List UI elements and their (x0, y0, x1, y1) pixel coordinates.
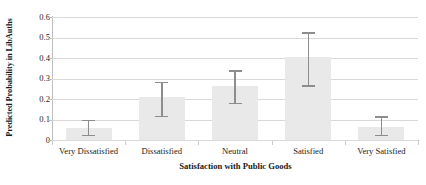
error-bar-cap-lower (302, 85, 315, 86)
gridline (52, 58, 418, 59)
error-bar-stem (308, 32, 309, 86)
gridline (52, 140, 418, 141)
y-tickmark (48, 79, 52, 80)
y-tick-label: 0 (24, 136, 50, 145)
error-bar-stem (381, 116, 382, 135)
error-bar-cap-lower (375, 135, 388, 136)
error-bar (228, 70, 242, 104)
x-tick-label: Neutral (198, 145, 271, 157)
x-tickmark (418, 141, 419, 145)
error-bar (374, 116, 388, 135)
x-tickmark (198, 141, 199, 145)
y-tick-label: 0.1 (24, 115, 50, 124)
error-bar-stem (88, 120, 89, 136)
y-tickmark (48, 17, 52, 18)
error-bar-stem (234, 70, 235, 104)
error-bar-stem (161, 82, 162, 118)
x-tick-label: Dissatisfied (125, 145, 198, 157)
x-tickmark (272, 141, 273, 145)
error-bar-cap-lower (229, 103, 242, 104)
y-tickmark (48, 120, 52, 121)
gridline (52, 17, 418, 18)
x-tick-label: Very Satisfied (345, 145, 418, 157)
x-tickmark (125, 141, 126, 145)
bar-chart: Predicted Probability in LibAuths 00.10.… (0, 0, 426, 185)
y-axis-tick-labels: 00.10.20.30.40.50.6 (24, 0, 50, 185)
y-tick-label: 0.6 (24, 13, 50, 22)
error-bar-cap-lower (155, 116, 168, 117)
y-axis-title: Predicted Probability in LibAuths (3, 5, 17, 150)
x-tickmark (345, 141, 346, 145)
error-bar (155, 82, 169, 118)
error-bar (301, 32, 315, 86)
x-axis-tick-labels: Very DissatisfiedDissatisfiedNeutralSati… (52, 145, 419, 159)
x-tickmark (52, 141, 53, 145)
y-tickmark (48, 99, 52, 100)
y-tick-label: 0.4 (24, 54, 50, 63)
gridline (52, 38, 418, 39)
y-tickmark (48, 58, 52, 59)
y-tick-label: 0.3 (24, 74, 50, 83)
plot-area (52, 17, 418, 140)
x-tick-label: Satisfied (272, 145, 345, 157)
x-axis-title: Satisfaction with Public Goods (52, 161, 419, 171)
y-tick-label: 0.5 (24, 33, 50, 42)
y-tickmark (48, 38, 52, 39)
x-tick-label: Very Dissatisfied (52, 145, 125, 157)
error-bar (82, 120, 96, 136)
y-tick-label: 0.2 (24, 95, 50, 104)
error-bar-cap-lower (82, 135, 95, 136)
